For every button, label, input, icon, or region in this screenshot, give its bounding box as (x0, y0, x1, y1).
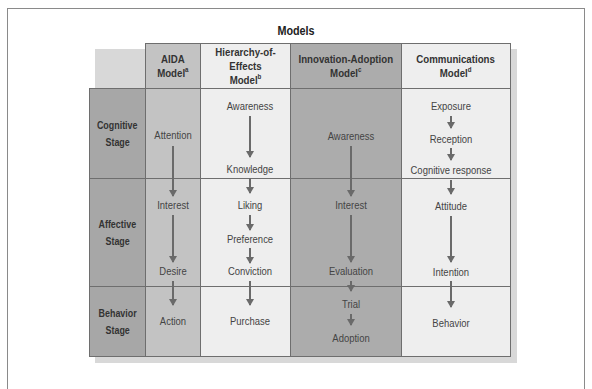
step-cognitive-response: Cognitive response (411, 164, 492, 176)
step-liking: Liking (238, 199, 263, 211)
arrow-down-icon (172, 146, 174, 196)
step-attitude: Attitude (435, 200, 467, 212)
header-aida: AIDAModela (145, 43, 201, 89)
step-awareness: Awareness (227, 100, 274, 112)
models-title: Models (30, 24, 563, 38)
step-desire: Desire (159, 265, 186, 277)
arrow-down-icon (450, 216, 452, 262)
step-awareness: Awareness (328, 130, 375, 142)
step-intention: Intention (433, 266, 469, 278)
step-trial: Trial (342, 298, 360, 310)
arrow-down-icon (450, 148, 452, 160)
step-exposure: Exposure (431, 100, 471, 112)
step-purchase: Purchase (230, 315, 270, 327)
step-action: Action (160, 315, 186, 327)
arrow-down-icon (350, 146, 352, 196)
arrow-down-icon (172, 281, 174, 305)
step-conviction: Conviction (228, 265, 272, 277)
header-innovation-adoption: Innovation-AdoptionModelc (290, 43, 402, 89)
arrow-down-icon (249, 178, 251, 193)
step-interest: Interest (157, 199, 189, 211)
step-knowledge: Knowledge (227, 163, 274, 175)
stage-behavior: BehaviorStage (89, 286, 146, 357)
arrow-down-icon (249, 215, 251, 230)
step-reception: Reception (430, 133, 473, 145)
step-adoption: Adoption (332, 332, 369, 344)
arrow-down-icon (249, 248, 251, 263)
arrow-down-icon (249, 116, 251, 157)
arrow-down-icon (450, 281, 452, 307)
arrow-down-icon (450, 116, 452, 128)
cell-innovation-behavior (290, 286, 402, 357)
arrow-down-icon (350, 314, 352, 325)
step-evaluation: Evaluation (329, 265, 373, 277)
arrow-down-icon (249, 281, 251, 305)
header-communications: CommunicationsModeld (401, 43, 511, 89)
step-preference: Preference (227, 233, 273, 245)
header-hierarchy-of-effects: Hierarchy-of-EffectsModelb (200, 43, 291, 89)
step-interest: Interest (335, 199, 367, 211)
arrow-down-icon (450, 180, 452, 194)
step-behavior: Behavior (432, 317, 469, 329)
arrow-down-icon (172, 215, 174, 262)
arrow-down-icon (350, 281, 352, 291)
step-attention: Attention (154, 129, 191, 141)
stage-affective: AffectiveStage (89, 178, 146, 287)
stage-cognitive: CognitiveStage (89, 88, 146, 179)
arrow-down-icon (350, 215, 352, 262)
